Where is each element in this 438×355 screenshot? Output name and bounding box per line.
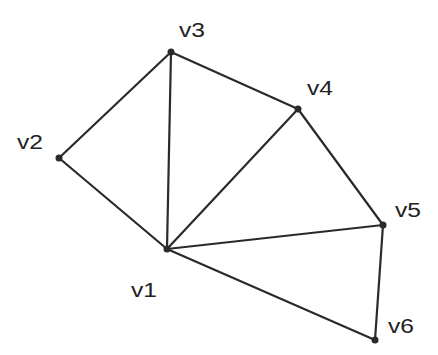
vertex-label-v1: v1 <box>131 279 157 301</box>
edge-v1-v6 <box>167 249 375 340</box>
vertex-label-v5: v5 <box>395 199 421 221</box>
vertex-v1 <box>164 246 171 253</box>
edge-v1-v5 <box>167 225 383 249</box>
vertex-v2 <box>56 155 63 162</box>
vertex-v4 <box>295 106 302 113</box>
vertex-label-v4: v4 <box>307 77 333 99</box>
edges <box>59 52 383 340</box>
edge-v1-v2 <box>59 158 167 249</box>
edge-v1-v3 <box>167 52 171 249</box>
vertex-label-v2: v2 <box>17 131 43 153</box>
edge-v4-v5 <box>298 109 383 225</box>
triangulation-graph: v1v2v3v4v5v6 <box>0 0 438 355</box>
edge-v5-v6 <box>375 225 383 340</box>
edge-v2-v3 <box>59 52 171 158</box>
edge-v3-v4 <box>171 52 298 109</box>
vertex-v3 <box>168 49 175 56</box>
vertex-label-v3: v3 <box>179 19 205 41</box>
vertex-v5 <box>380 222 387 229</box>
vertex-label-v6: v6 <box>388 315 414 337</box>
vertex-labels: v1v2v3v4v5v6 <box>17 19 421 337</box>
vertex-v6 <box>372 337 379 344</box>
edge-v1-v4 <box>167 109 298 249</box>
